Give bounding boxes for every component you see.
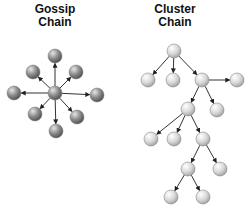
cluster-arrow [173,58,174,73]
cluster-arrow [177,115,185,132]
cluster-node [166,73,180,87]
gossip-arrow [60,77,71,88]
cluster-node [210,103,224,117]
gossip-node [90,88,104,102]
cluster-arrow [175,175,184,191]
cluster-node [144,132,158,146]
cluster-nodes [141,44,244,204]
gossip-node [69,65,83,79]
gossip-node [48,49,62,63]
cluster-node [230,73,244,87]
cluster-arrow [205,86,214,103]
gossip-center-node [48,86,62,100]
cluster-node [213,162,227,176]
gossip-arrow [60,98,72,111]
cluster-node [195,73,209,87]
cluster-node [167,132,181,146]
cluster-arrow [191,86,199,102]
gossip-arrow [55,100,56,124]
cluster-node [141,73,155,87]
gossip-arrow [40,98,50,109]
gossip-arrow [38,77,50,88]
chain-diagrams [0,0,248,208]
cluster-arrow [191,145,200,162]
cluster-arrow [191,115,200,132]
gossip-node [26,65,40,79]
cluster-node [181,162,195,176]
gossip-node [49,124,63,138]
gossip-arrow [62,93,90,94]
cluster-node [181,102,195,116]
gossip-node [7,86,21,100]
cluster-arrow [191,175,199,190]
cluster-arrow [157,113,183,134]
cluster-arrow [206,145,216,162]
cluster-node [167,44,181,58]
cluster-arrow [179,56,197,75]
cluster-node [164,190,178,204]
gossip-node [70,110,84,124]
cluster-arrow [153,56,169,74]
cluster-node [196,132,210,146]
cluster-node [196,190,210,204]
gossip-node [28,107,42,121]
